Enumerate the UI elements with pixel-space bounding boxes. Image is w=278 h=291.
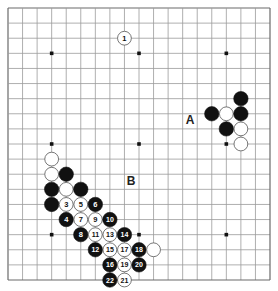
black-stone: 10 <box>103 212 117 226</box>
black-stone <box>205 107 219 121</box>
white-stone: 3 <box>59 198 73 212</box>
hoshi-point <box>137 142 141 146</box>
black-stone <box>234 107 248 121</box>
black-stone: 20 <box>132 258 146 272</box>
white-stone <box>234 137 248 151</box>
white-stone: 21 <box>118 273 132 287</box>
black-stone <box>59 167 73 181</box>
hoshi-point <box>225 233 229 237</box>
white-stone: 1 <box>118 31 132 45</box>
white-stone <box>59 182 73 196</box>
letter-labels: AB <box>127 113 195 188</box>
white-stone: 15 <box>103 243 117 257</box>
black-stone: 6 <box>88 197 102 211</box>
black-stone <box>44 197 58 211</box>
move-number: 20 <box>135 261 143 268</box>
white-stone <box>147 243 161 257</box>
hoshi-point <box>225 142 229 146</box>
move-number: 16 <box>106 261 114 268</box>
white-stone <box>45 167 59 181</box>
move-number: 22 <box>106 277 114 284</box>
move-number: 9 <box>93 215 97 224</box>
white-stone: 17 <box>118 243 132 257</box>
black-stone: 12 <box>88 243 102 257</box>
move-number: 11 <box>92 231 100 238</box>
black-stone: 18 <box>132 243 146 257</box>
go-board-canvas: 1345678910111213141516171819202122 AB <box>0 0 278 291</box>
move-number: 12 <box>91 246 99 253</box>
white-stone: 5 <box>74 198 88 212</box>
move-number: 19 <box>121 261 129 268</box>
move-number: 21 <box>121 277 129 284</box>
move-number: 3 <box>64 200 68 209</box>
move-number: 5 <box>79 200 83 209</box>
black-stone: 22 <box>103 273 117 287</box>
move-number: 17 <box>121 246 129 253</box>
move-number: 10 <box>106 216 114 223</box>
black-stone <box>44 182 58 196</box>
black-stone <box>234 91 248 105</box>
hoshi-point <box>225 52 229 56</box>
go-board-diagram: 1345678910111213141516171819202122 AB <box>0 0 278 291</box>
hoshi-point <box>50 142 54 146</box>
white-stone: 7 <box>74 213 88 227</box>
white-stone <box>219 107 233 121</box>
move-number: 18 <box>135 246 143 253</box>
black-stone <box>219 122 233 136</box>
move-number: 15 <box>106 246 114 253</box>
black-stone: 16 <box>103 258 117 272</box>
white-stone: 11 <box>88 228 102 242</box>
move-number: 8 <box>79 230 83 239</box>
board-label-a: A <box>186 113 195 127</box>
hoshi-point <box>137 233 141 237</box>
black-stone: 4 <box>59 212 73 226</box>
hoshi-point <box>137 52 141 56</box>
black-stone <box>74 182 88 196</box>
black-stone: 14 <box>117 227 131 241</box>
white-stone: 13 <box>103 228 117 242</box>
black-stone: 8 <box>74 227 88 241</box>
hoshi-point <box>50 233 54 237</box>
white-stone <box>45 152 59 166</box>
hoshi-point <box>50 52 54 56</box>
move-number: 7 <box>79 215 83 224</box>
move-number: 14 <box>121 231 129 238</box>
move-number: 13 <box>106 231 114 238</box>
white-stone <box>234 122 248 136</box>
move-number: 1 <box>122 34 126 43</box>
move-number: 6 <box>93 200 97 209</box>
white-stone: 9 <box>88 213 102 227</box>
white-stone: 19 <box>118 258 132 272</box>
board-label-b: B <box>127 174 136 188</box>
